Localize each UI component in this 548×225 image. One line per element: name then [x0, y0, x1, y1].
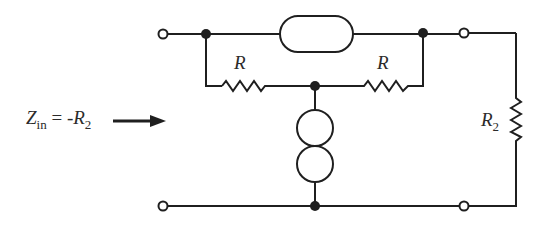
- nullator-capsule: [280, 16, 353, 52]
- r2-symbol: R: [481, 109, 493, 130]
- output-terminal-bottom: [460, 202, 469, 211]
- load-resistor-label: R2: [481, 110, 499, 129]
- left-branch-wire: [206, 34, 222, 86]
- input-impedance-label: Zin = -R2: [26, 108, 91, 127]
- output-terminal-top: [460, 29, 469, 38]
- junction-dot-input: [201, 29, 211, 39]
- zin-subscript: in: [37, 117, 47, 132]
- junction-dot-ground: [310, 201, 320, 211]
- resistor-R-right: [315, 34, 423, 91]
- resistor-R-left: [222, 81, 315, 91]
- input-terminal-top: [159, 30, 168, 39]
- circuit-diagram: Zin = -R2 R R R2: [0, 0, 548, 225]
- rhs-symbol: R: [73, 107, 85, 128]
- resistor-right-label: R: [377, 53, 389, 72]
- norator-circle-upper: [297, 110, 333, 146]
- junction-dot-output: [418, 28, 428, 38]
- input-terminal-bottom: [159, 202, 168, 211]
- resistor-left-label: R: [234, 53, 246, 72]
- equals-minus: = -: [47, 107, 74, 128]
- input-arrow-icon: [113, 115, 166, 127]
- r2-subscript: 2: [493, 119, 500, 134]
- rhs-subscript: 2: [85, 117, 92, 132]
- junction-dot-mid: [310, 81, 320, 91]
- norator-circle-lower: [297, 146, 333, 182]
- zin-symbol: Z: [26, 107, 37, 128]
